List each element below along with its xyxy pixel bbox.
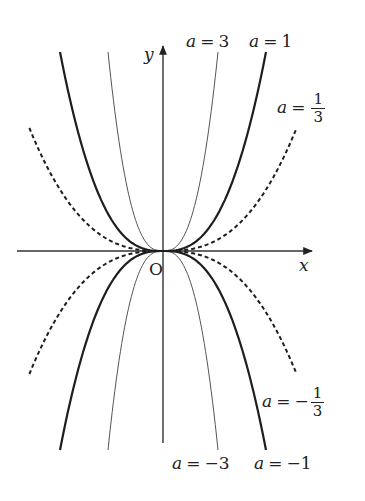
graph-figure [0,0,365,501]
label-eq: = [276,391,290,411]
label-a-minus-1: a=−1 [254,455,311,472]
fraction: 13 [311,386,325,419]
y-axis-label: y [144,46,154,63]
fraction-numerator: 1 [311,386,325,403]
label-a-one-third: a=13 [277,92,325,125]
label-var: a [186,31,196,51]
label-eq: = [268,453,282,473]
label-eq: = [186,453,200,473]
label-var: a [277,97,287,117]
label-a-1: a=1 [249,33,292,50]
fraction-denominator: 3 [313,403,323,420]
label-var: a [172,453,182,473]
label-a-3: a=3 [186,33,229,50]
label-value: −3 [204,453,229,473]
label-a-minus-3: a=−3 [172,455,229,472]
label-eq: = [263,31,277,51]
fraction-denominator: 3 [313,109,323,126]
x-axis-label: x [299,257,309,274]
label-sign: − [294,391,308,411]
fraction: 13 [311,92,325,125]
origin-label: O [149,261,163,278]
label-var: a [262,391,272,411]
label-value: 3 [218,31,229,51]
label-var: a [254,453,264,473]
label-value: 1 [281,31,292,51]
label-eq: = [200,31,214,51]
label-a-minus-one-third: a=−13 [262,386,324,419]
fraction-numerator: 1 [311,92,325,109]
label-eq: = [291,97,305,117]
label-var: a [249,31,259,51]
label-value: −1 [286,453,311,473]
